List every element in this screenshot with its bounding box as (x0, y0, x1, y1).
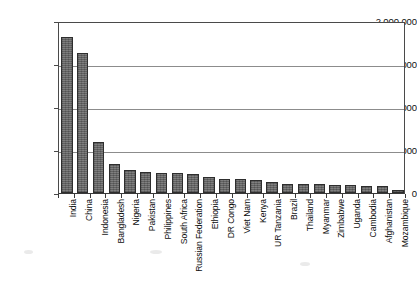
x-axis-tick-mark (90, 194, 91, 198)
x-axis-tick-label: Philippines (164, 199, 173, 239)
x-axis-tick-mark (216, 194, 217, 198)
x-axis-tick-label: Thailand (306, 199, 315, 231)
bar (77, 53, 88, 193)
x-axis-tick-label: Afghanistan (385, 199, 394, 243)
scan-artifact (300, 262, 310, 266)
bar (298, 184, 309, 193)
bar (345, 185, 356, 193)
bar (156, 173, 167, 193)
x-axis-tick-label: China (85, 199, 94, 221)
x-axis-tick-label: Cambodia (369, 199, 378, 237)
bar (266, 182, 277, 193)
x-axis-tick-mark (74, 194, 75, 198)
bar (235, 179, 246, 193)
x-axis-tick-mark (153, 194, 154, 198)
bar (140, 172, 151, 193)
bar (124, 170, 135, 193)
x-axis-tick-mark (310, 194, 311, 198)
x-axis-tick-mark (200, 194, 201, 198)
x-axis-tick-label: Indonesia (101, 199, 110, 235)
x-axis-tick-label: Viet Nam (243, 199, 252, 233)
bar-chart-figure: 0500,0001,000,0001,500,0002,000,000 Indi… (0, 0, 417, 308)
x-axis-tick-label: Kenya (259, 199, 268, 223)
x-axis-tick-label: Mozambique (401, 199, 410, 247)
bar (314, 184, 325, 193)
bar (109, 164, 120, 193)
bar (93, 142, 104, 193)
x-axis-tick-mark (295, 194, 296, 198)
x-axis-tick-mark (184, 194, 185, 198)
x-axis-tick-mark (58, 194, 59, 198)
scan-artifact (24, 250, 33, 254)
x-axis-tick-mark (326, 194, 327, 198)
x-axis-tick-mark (358, 194, 359, 198)
bar (61, 37, 72, 193)
x-axis-tick-label: Brazil (290, 199, 299, 220)
x-axis-tick-label: UR Tanzania (274, 199, 283, 247)
x-axis-tick-mark (105, 194, 106, 198)
scan-artifact (150, 250, 162, 254)
bar (392, 190, 403, 193)
bar (250, 180, 261, 193)
bar (172, 173, 183, 193)
x-axis-tick-label: Bangladesh (117, 199, 126, 243)
x-axis-tick-label: Myanmar (322, 199, 331, 234)
x-axis-tick-mark (247, 194, 248, 198)
bar (187, 174, 198, 193)
x-axis-tick-label: Ethiopia (211, 199, 220, 229)
x-axis-tick-mark (263, 194, 264, 198)
bar (282, 184, 293, 193)
x-axis-tick-mark (168, 194, 169, 198)
x-axis-tick-label: India (69, 199, 78, 217)
x-axis-tick-mark (389, 194, 390, 198)
x-axis-tick-mark (279, 194, 280, 198)
x-axis-tick-mark (373, 194, 374, 198)
x-axis-tick-label: Nigeria (132, 199, 141, 226)
bar (377, 186, 388, 193)
x-axis-tick-label: Russian Federation (195, 199, 204, 272)
bars-layer (59, 23, 404, 193)
x-axis-tick-label: South Africa (180, 199, 189, 244)
bar (203, 177, 214, 193)
bar (361, 186, 372, 193)
plot-area (58, 22, 405, 194)
x-axis-tick-mark (137, 194, 138, 198)
x-axis-tick-label: Uganda (353, 199, 362, 229)
x-axis-tick-label: DR Congo (227, 199, 236, 238)
bar (219, 179, 230, 193)
x-axis-tick-mark (232, 194, 233, 198)
x-axis-tick-mark (121, 194, 122, 198)
x-axis-tick-label: Pakistan (148, 199, 157, 231)
x-axis-tick-mark (342, 194, 343, 198)
x-axis-tick-mark (405, 194, 406, 198)
x-axis-tick-label: Zimbabwe (337, 199, 346, 238)
bar (329, 185, 340, 193)
